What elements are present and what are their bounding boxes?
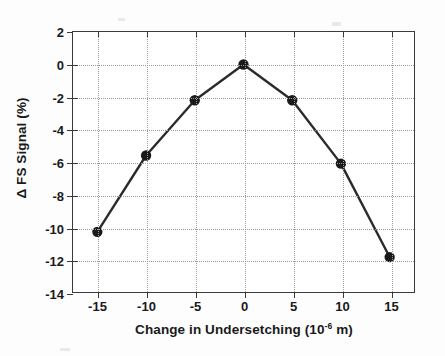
x-axis-tick-inner xyxy=(98,32,99,37)
x-axis-tick-label: 0 xyxy=(241,299,248,314)
gridline-horizontal xyxy=(73,261,414,262)
x-axis-tick-inner xyxy=(245,32,246,37)
gridline-horizontal xyxy=(73,163,414,164)
x-axis-tick-label: -10 xyxy=(137,299,156,314)
x-axis-tick-label: -5 xyxy=(190,299,202,314)
x-axis-tick xyxy=(294,292,295,298)
x-axis-tick-inner xyxy=(196,32,197,37)
y-axis-tick-label: 2 xyxy=(57,25,64,40)
x-axis-exponent: -6 xyxy=(325,321,333,331)
y-axis-tick-inner xyxy=(73,163,78,164)
gridline-vertical xyxy=(245,32,246,292)
gridline-vertical xyxy=(343,32,344,292)
y-axis-tick-inner xyxy=(73,65,78,66)
y-axis-tick-label: -12 xyxy=(45,254,64,269)
x-axis-tick-inner xyxy=(147,32,148,37)
x-axis-tick xyxy=(343,292,344,298)
y-axis-tick-inner xyxy=(73,196,78,197)
y-axis-tick-label: -14 xyxy=(45,287,64,302)
data-series-svg xyxy=(73,32,414,292)
x-axis-tick-label: 10 xyxy=(335,299,349,314)
chart-figure: Δ FS Signal (%) 20-2-4-6-8-10-12-14-15-1… xyxy=(0,0,445,356)
y-axis-title: Δ FS Signal (%) xyxy=(10,8,32,288)
y-axis-tick xyxy=(67,294,73,295)
y-axis-tick-label: -4 xyxy=(52,123,64,138)
plot-area: 20-2-4-6-8-10-12-14-15-10-5051015 xyxy=(72,31,415,293)
y-axis-tick-inner xyxy=(73,130,78,131)
plot-inner: 20-2-4-6-8-10-12-14-15-10-5051015 xyxy=(73,32,414,292)
gridline-vertical xyxy=(294,32,295,292)
x-axis-tick-label: 5 xyxy=(290,299,297,314)
x-axis-tick-inner xyxy=(294,32,295,37)
y-axis-tick-label: -8 xyxy=(52,188,64,203)
x-axis-tick-label: -15 xyxy=(88,299,107,314)
x-axis-tick xyxy=(392,292,393,298)
y-axis-tick-label: 0 xyxy=(57,57,64,72)
gridline-vertical xyxy=(392,32,393,292)
y-axis-tick-inner xyxy=(73,261,78,262)
x-axis-tick xyxy=(245,292,246,298)
gridline-horizontal xyxy=(73,98,414,99)
y-axis-tick-label: -2 xyxy=(52,90,64,105)
gridline-horizontal xyxy=(73,130,414,131)
y-axis-tick-inner xyxy=(73,98,78,99)
y-axis-tick xyxy=(67,32,73,33)
gridline-vertical xyxy=(196,32,197,292)
y-axis-tick-label: -6 xyxy=(52,156,64,171)
x-axis-tick-label: 15 xyxy=(384,299,398,314)
y-axis-tick-label: -10 xyxy=(45,221,64,236)
x-axis-tick xyxy=(196,292,197,298)
x-axis-tick xyxy=(98,292,99,298)
x-axis-tick xyxy=(147,292,148,298)
x-axis-tick-inner xyxy=(343,32,344,37)
gridline-horizontal xyxy=(73,65,414,66)
gridline-vertical xyxy=(98,32,99,292)
y-axis-tick-inner xyxy=(73,229,78,230)
x-axis-tick-inner xyxy=(392,32,393,37)
scan-speckle xyxy=(60,348,70,351)
scan-speckle xyxy=(332,22,341,26)
scan-speckle xyxy=(118,18,125,21)
gridline-horizontal xyxy=(73,196,414,197)
x-axis-title: Change in Undersetching (10-6 m) xyxy=(72,322,416,337)
gridline-vertical xyxy=(147,32,148,292)
gridline-horizontal xyxy=(73,229,414,230)
